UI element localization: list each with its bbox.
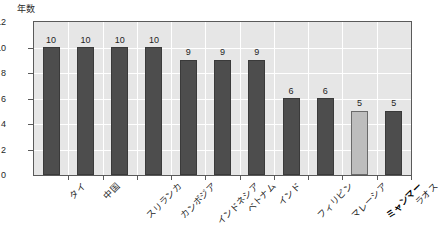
bar-value-label: 10: [46, 35, 56, 45]
gridline-vertical: [68, 22, 69, 175]
bar-value-label: 9: [220, 47, 225, 57]
gridline-vertical: [103, 22, 104, 175]
gridline-vertical: [205, 22, 206, 175]
x-axis-label: カンボジア: [177, 180, 218, 221]
x-tick-mark: [411, 176, 412, 180]
y-tick-mark: [28, 73, 33, 74]
gridline-vertical: [240, 22, 241, 175]
y-tick-mark: [28, 99, 33, 100]
bar: [385, 111, 402, 175]
bar-value-label: 6: [323, 86, 328, 96]
bar: [111, 47, 128, 175]
x-tick-mark: [342, 176, 343, 180]
bar-value-label: 5: [357, 98, 362, 108]
y-tick-mark: [28, 150, 33, 151]
bar: [351, 111, 368, 175]
bar-value-label: 10: [115, 35, 125, 45]
bar: [317, 98, 334, 175]
x-tick-mark: [171, 176, 172, 180]
x-tick-mark: [274, 176, 275, 180]
y-tick-mark: [28, 48, 33, 49]
bar-value-label: 6: [289, 86, 294, 96]
y-axis-tick-label: 0: [0, 170, 6, 180]
y-axis-title: 年数: [17, 2, 35, 15]
y-axis-tick-label: 2: [0, 145, 6, 155]
x-tick-mark: [240, 176, 241, 180]
x-axis-label: 中国: [101, 180, 123, 202]
y-axis-tick-label: 4: [0, 119, 6, 129]
x-tick-mark: [377, 176, 378, 180]
gridline-vertical: [342, 22, 343, 175]
gridline-vertical: [377, 22, 378, 175]
bar-value-label: 10: [80, 35, 90, 45]
bar: [145, 47, 162, 175]
bar-value-label: 9: [186, 47, 191, 57]
gridline-vertical: [137, 22, 138, 175]
x-axis-label: フィリピン: [314, 180, 355, 221]
bar: [77, 47, 94, 175]
y-axis-tick-label: 6: [0, 94, 6, 104]
x-tick-mark: [205, 176, 206, 180]
bar-value-label: 5: [391, 98, 396, 108]
gridline-vertical: [171, 22, 172, 175]
bar: [214, 60, 231, 175]
x-axis-label: インド: [275, 180, 303, 208]
x-tick-mark: [308, 176, 309, 180]
x-axis-label: スリランカ: [143, 180, 184, 221]
bar: [283, 98, 300, 175]
y-axis-tick-label: 12: [0, 17, 6, 27]
x-tick-mark: [137, 176, 138, 180]
bar: [248, 60, 265, 175]
bar: [43, 47, 60, 175]
bar-value-label: 9: [254, 47, 259, 57]
bar: [180, 60, 197, 175]
x-tick-mark: [103, 176, 104, 180]
gridline-vertical: [308, 22, 309, 175]
y-axis-tick-label: 10: [0, 43, 6, 53]
gridline-vertical: [274, 22, 275, 175]
x-axis-label: タイ: [66, 180, 88, 202]
y-axis-tick-label: 8: [0, 68, 6, 78]
x-axis-label: マレーシア: [348, 180, 389, 221]
x-tick-mark: [68, 176, 69, 180]
y-tick-mark: [28, 124, 33, 125]
bar-value-label: 10: [149, 35, 159, 45]
